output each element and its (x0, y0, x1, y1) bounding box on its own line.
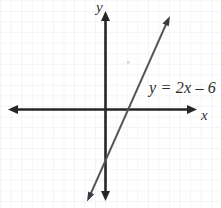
grid-lines (0, 0, 221, 208)
stray-speck (127, 61, 130, 64)
equation-label: y = 2x – 6 (149, 80, 216, 96)
y-axis-label: y (96, 0, 103, 15)
x-axis-label: x (201, 108, 208, 123)
coordinate-plane-svg (0, 0, 221, 208)
graph-figure: y x y = 2x – 6 (0, 0, 221, 208)
